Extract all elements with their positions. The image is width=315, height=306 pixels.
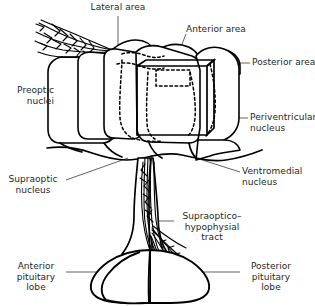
label-supraoptic-nucleus: Supraoptic nucleus	[2, 174, 64, 195]
label-preoptic-nuclei: Preoptic nuclei	[2, 85, 54, 106]
label-anterior-area: Anterior area	[186, 24, 266, 35]
label-posterior-area: Posterior area	[252, 57, 314, 68]
leader-supraoptic	[66, 158, 128, 180]
posterior-pituitary-lobe-shape	[150, 250, 209, 303]
posterior-area-block	[196, 47, 239, 148]
label-supraoptico-hypophysial-tract: Supraoptico– hypophysial tract	[176, 211, 248, 243]
hypothalamus-pituitary-diagram: Lateral area Anterior area Posterior are…	[0, 0, 315, 306]
label-lateral-area: Lateral area	[80, 2, 156, 13]
posterior-fold	[196, 140, 240, 160]
pituitary-gland	[91, 250, 209, 303]
hypothalamus-block	[48, 40, 240, 160]
label-periventricular-nucleus: Periventricular nucleus	[250, 112, 315, 133]
label-ventromedial-nucleus: Ventromedial nucleus	[242, 166, 315, 187]
label-anterior-pituitary-lobe: Anterior pituitary lobe	[8, 261, 64, 293]
label-posterior-pituitary-lobe: Posterior pituitary lobe	[242, 261, 300, 293]
